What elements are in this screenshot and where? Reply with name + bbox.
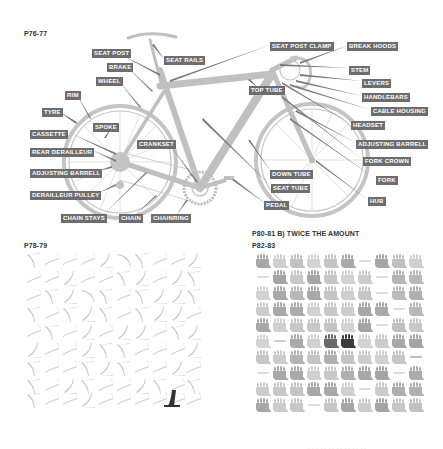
top-tube <box>160 74 272 86</box>
page-label-p80-81: P80-81 B) TWICE THE AMOUNT <box>252 230 359 237</box>
label-seat-post-clamp: SEAT POST CLAMP <box>270 42 334 51</box>
label-seat-tube: SEAT TUBE <box>271 184 310 193</box>
seat-post <box>150 40 162 86</box>
label-wheel: WHEEL <box>96 77 123 86</box>
glove-pattern-grid <box>253 252 428 412</box>
label-fork: FORK <box>376 176 398 185</box>
label-seat-rails: SEAT RAILS <box>164 56 205 65</box>
label-pedal: PEDAL <box>264 201 289 210</box>
label-chain-stays: CHAIN STAYS <box>61 214 107 223</box>
label-adjusting-barrell-front: ADJUSTING BARRELL <box>356 140 428 149</box>
derailleur-pulley <box>116 181 124 189</box>
label-cable-housing: CABLE HOUSING <box>371 107 428 116</box>
label-cassette: CASSETTE <box>30 130 68 139</box>
cassette <box>110 152 130 172</box>
pedal-shape <box>224 176 234 180</box>
label-chainring: CHAINRING <box>151 214 191 223</box>
label-fork-crown: FORK CROWN <box>363 157 411 166</box>
label-spoke: SPOKE <box>93 123 119 132</box>
label-levers: LEVERS <box>362 79 391 88</box>
label-tyre: TYRE <box>42 108 63 117</box>
footer-caption: · · · · · · · · · · · · · · · <box>308 445 367 449</box>
label-seat-post: SEAT POST <box>92 49 131 58</box>
label-rear-derailleur: REAR DERAILLEUR <box>30 148 94 157</box>
label-crankset: CRANKSET <box>137 140 176 149</box>
label-top-tube: TOP TUBE <box>249 86 285 95</box>
label-stem: STEM <box>349 66 370 75</box>
saddle <box>128 34 176 38</box>
crank-pattern-grid <box>24 250 202 408</box>
page-label-p78-79: P78-79 <box>24 242 47 249</box>
label-rim: RIM <box>65 91 81 100</box>
label-handlebars: HANDLEBARS <box>362 93 410 102</box>
label-adjusting-barrell-rear: ADJUSTING BARRELL <box>30 169 102 178</box>
label-brake: BRAKE <box>107 63 133 72</box>
label-break-hoods: BREAK HOODS <box>347 42 398 51</box>
seat-stay <box>120 90 165 162</box>
label-derailleur-pulley: DERAILLEUR PULLEY <box>30 191 101 200</box>
label-hub: HUB <box>368 197 386 206</box>
label-chain: CHAIN <box>119 214 143 223</box>
page-label-p82-83: P82-83 <box>252 242 275 249</box>
label-headset: HEADSET <box>351 121 385 130</box>
crank-cells <box>27 253 201 408</box>
label-down-tube: DOWN TUBE <box>270 170 313 179</box>
glove-cells <box>256 254 424 412</box>
